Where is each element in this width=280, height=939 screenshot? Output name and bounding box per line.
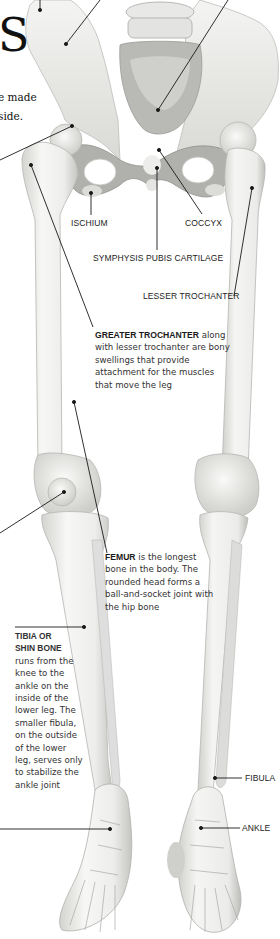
right-leg [167, 122, 265, 932]
femur-description: FEMUR is the longest bone in the body. T… [105, 551, 215, 613]
label-fibula: FIBULA [245, 773, 275, 783]
tibia-description: TIBIA OR SHIN BONE runs from the knee to… [15, 630, 83, 791]
intro-line-1: e made [0, 88, 37, 107]
left-leg [22, 124, 132, 932]
label-ankle: ANKLE [242, 823, 270, 833]
intro-text: e made side. [0, 88, 37, 126]
intro-line-2: side. [0, 107, 37, 126]
greater-trochanter-description: GREATER TROCHANTER along with lesser tro… [95, 329, 230, 391]
label-ischium: ISCHIUM [71, 218, 108, 228]
tibia-term-line-2: SHIN BONE [15, 642, 83, 654]
label-lesser-trochanter: LESSER TROCHANTER [143, 291, 239, 301]
tibia-term-line-1: TIBIA OR [15, 630, 83, 642]
greater-trochanter-term: GREATER TROCHANTER [95, 330, 199, 340]
label-symphysis-pubis-cartilage: SYMPHYSIS PUBIS CARTILAGE [93, 253, 223, 263]
tibia-text: runs from the knee to the ankle on the i… [15, 655, 83, 791]
title-fragment: S [0, 12, 30, 58]
skeleton-illustration [0, 0, 280, 939]
femur-term: FEMUR [105, 552, 136, 562]
label-coccyx: COCCYX [185, 218, 222, 228]
